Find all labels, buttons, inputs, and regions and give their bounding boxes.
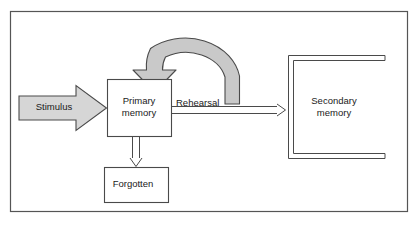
secondary-memory-label-line1: Secondary <box>311 95 356 106</box>
secondary-memory-label-line2: memory <box>317 107 351 118</box>
forgotten-label: Forgotten <box>103 178 163 190</box>
primary-memory-label-line1: Primary <box>123 95 156 106</box>
secondary-memory-label: Secondarymemory <box>294 95 374 118</box>
primary-memory-label: Primarymemory <box>110 95 168 118</box>
stimulus-label: Stimulus <box>26 101 82 113</box>
rehearsal-label: Rehearsal <box>176 97 232 109</box>
diagram-canvas: Stimulus Primarymemory Rehearsal Seconda… <box>0 0 419 226</box>
primary-memory-label-line2: memory <box>122 107 156 118</box>
